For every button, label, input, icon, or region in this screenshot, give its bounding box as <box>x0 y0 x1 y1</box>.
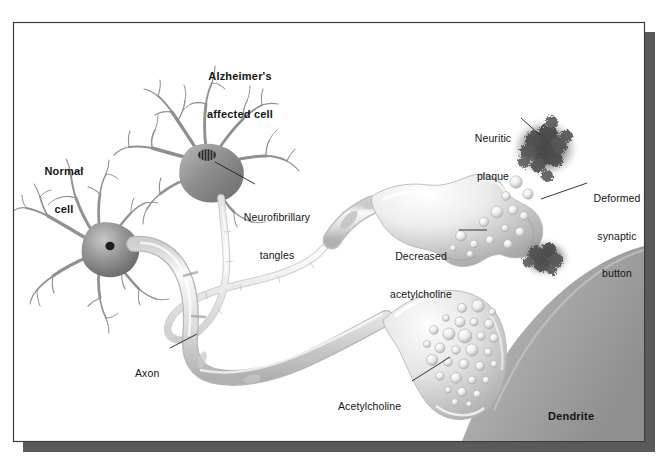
label-alzheimers-affected-cell: Alzheimer's affected cell <box>182 45 298 145</box>
label-deformed-synaptic-button-line-3: button <box>589 267 645 280</box>
label-decreased-acetylcholine: Decreased acetylcholine <box>383 225 459 325</box>
label-dendrite: Dendrite <box>548 385 610 448</box>
label-neuritic-plaque-line-2: plaque <box>465 170 521 183</box>
label-deformed-synaptic-button-line-1: Deformed <box>589 192 645 205</box>
label-decreased-acetylcholine-line-1: Decreased <box>383 250 459 263</box>
label-neurofibrillary-tangles: Neurofibrillary tangles <box>236 186 318 286</box>
label-neurofibrillary-tangles-line-1: Neurofibrillary <box>236 211 318 224</box>
label-neuritic-plaque: Neuritic plaque <box>465 107 521 207</box>
label-axon-line-1: Axon <box>135 367 175 380</box>
label-neuritic-plaque-line-1: Neuritic <box>465 132 521 145</box>
label-deformed-synaptic-button-line-2: synaptic <box>589 230 645 243</box>
label-alzheimers-affected-cell-line-1: Alzheimer's <box>182 70 298 83</box>
label-neurofibrillary-tangles-line-2: tangles <box>236 249 318 262</box>
label-normal-cell-line-1: Normal <box>32 165 96 178</box>
neuritic-plaque-lower <box>521 240 569 276</box>
label-dendrite-line-1: Dendrite <box>548 410 610 423</box>
label-normal-cell: Normal cell <box>32 140 96 240</box>
figure-root: Normal cell Alzheimer's affected cell Ne… <box>0 0 660 458</box>
label-deformed-synaptic-button: Deformed synaptic button <box>589 167 645 305</box>
label-acetylcholine-line-1: Acetylcholine <box>338 400 414 413</box>
normal-nucleus <box>105 242 114 250</box>
label-acetylcholine: Acetylcholine <box>338 375 414 438</box>
label-normal-cell-line-2: cell <box>32 203 96 216</box>
label-decreased-acetylcholine-line-2: acetylcholine <box>383 288 459 301</box>
neurofibrillary-tangle-nucleus <box>198 149 216 161</box>
label-alzheimers-affected-cell-line-2: affected cell <box>182 108 298 121</box>
label-axon: Axon <box>135 342 175 405</box>
